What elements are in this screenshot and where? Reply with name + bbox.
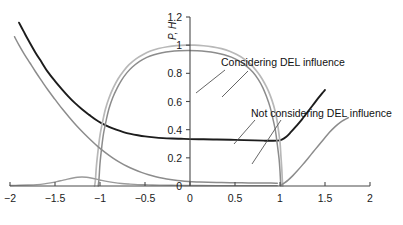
- y-tick-label-1: 0.2: [167, 152, 182, 164]
- x-tick-label-7: 1.5: [318, 192, 333, 204]
- chart-svg: −2−1.5−1−0.500.511.5200.20.40.60.811.2 C…: [0, 0, 403, 225]
- annotation-considering-del: Considering DEL influence: [221, 56, 345, 68]
- chart-figure: −2−1.5−1−0.500.511.5200.20.40.60.811.2 C…: [0, 0, 403, 225]
- y-tick-label-0: 0: [176, 180, 182, 192]
- x-tick-label-4: 0: [187, 192, 193, 204]
- x-tick-label-3: −0.5: [135, 192, 156, 204]
- y-tick-label-2: 0.4: [167, 124, 182, 136]
- x-tick-label-2: −1: [94, 192, 106, 204]
- y-axis-label: P, H: [167, 21, 178, 40]
- x-tick-label-6: 1: [277, 192, 283, 204]
- x-tick-label-8: 2: [367, 192, 373, 204]
- y-tick-label-6: 1.2: [167, 11, 182, 23]
- x-tick-label-5: 0.5: [228, 192, 243, 204]
- y-tick-label-4: 0.8: [167, 67, 182, 79]
- y-tick-label-3: 0.6: [167, 96, 182, 108]
- x-tick-label-1: −1.5: [45, 192, 66, 204]
- annotation-not-considering-del: Not considering DEL influence: [251, 107, 392, 119]
- x-tick-label-0: −2: [4, 192, 16, 204]
